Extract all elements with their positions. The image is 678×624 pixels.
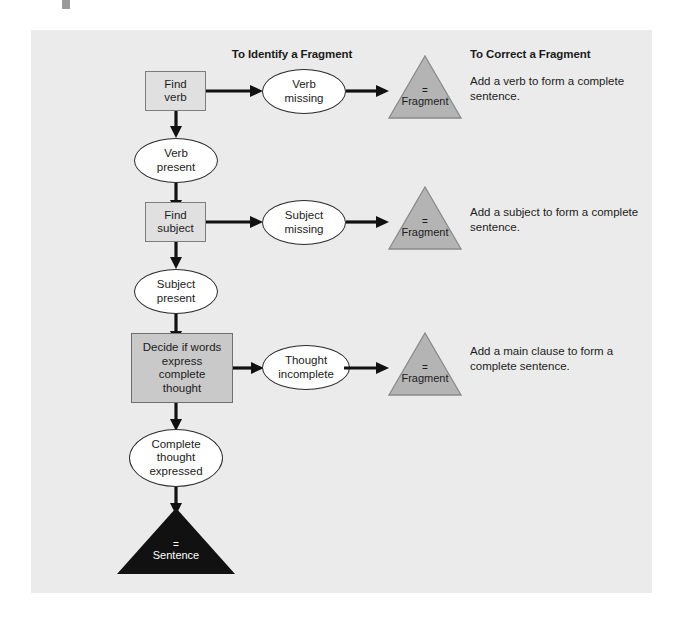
node-thought-incomplete-label: Thought incomplete: [278, 354, 334, 381]
node-decide-thought-label: Decide if words express complete thought: [143, 341, 222, 395]
scan-artifact-mark: [62, 0, 70, 9]
connector-thought-incomplete-to-fragment-3: [344, 361, 390, 375]
node-thought-incomplete[interactable]: Thought incomplete: [262, 345, 350, 390]
header-to-identify-a-fragment: To Identify a Fragment: [199, 48, 385, 60]
connector-decide-thought-to-thought-incomplete: [233, 361, 265, 375]
node-verb-present[interactable]: Verb present: [134, 138, 218, 183]
node-subject-present-label: Subject present: [157, 278, 195, 305]
connector-verb-missing-to-fragment-1: [346, 84, 390, 98]
node-fragment-2[interactable]: = Fragment: [388, 186, 462, 250]
node-find-verb-label: Find verb: [164, 78, 186, 105]
correction-text-3: Add a main clause to form a complete sen…: [470, 344, 645, 374]
node-complete-thought-label: Complete thought expressed: [149, 438, 202, 479]
node-fragment-1[interactable]: = Fragment: [388, 55, 462, 119]
node-subject-present[interactable]: Subject present: [134, 269, 218, 314]
node-find-subject[interactable]: Find subject: [145, 202, 206, 242]
node-verb-missing-label: Verb missing: [285, 78, 324, 105]
connector-find-subject-to-subject-present: [169, 242, 183, 270]
node-decide-if-words-express-complete-thought[interactable]: Decide if words express complete thought: [131, 333, 233, 403]
connector-find-verb-to-verb-missing: [206, 84, 264, 98]
connector-decide-thought-to-complete-thought: [169, 403, 183, 432]
node-find-verb[interactable]: Find verb: [145, 71, 206, 111]
connector-find-subject-to-subject-missing: [206, 215, 264, 229]
node-subject-missing-label: Subject missing: [285, 209, 324, 236]
node-complete-thought-expressed[interactable]: Complete thought expressed: [129, 429, 223, 487]
node-verb-present-label: Verb present: [157, 147, 195, 174]
correction-text-2: Add a subject to form a complete sentenc…: [470, 205, 645, 235]
node-fragment-3[interactable]: = Fragment: [388, 332, 462, 396]
connector-subject-missing-to-fragment-2: [346, 215, 390, 229]
header-to-correct-a-fragment: To Correct a Fragment: [470, 48, 590, 60]
connector-find-verb-to-verb-present: [169, 111, 183, 139]
node-verb-missing[interactable]: Verb missing: [262, 69, 346, 114]
correction-text-1: Add a verb to form a complete sentence.: [470, 74, 645, 104]
node-find-subject-label: Find subject: [157, 209, 193, 236]
node-subject-missing[interactable]: Subject missing: [262, 200, 346, 245]
